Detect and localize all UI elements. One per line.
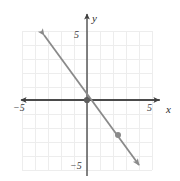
- point-origin: [84, 97, 90, 103]
- x-axis-tick-label-negative-5: −5: [13, 103, 25, 113]
- y-axis-name: y: [92, 13, 97, 24]
- point-on-line: [115, 132, 121, 138]
- x-axis-tick-label-5: 5: [147, 103, 152, 113]
- graph-figure: 5 −5 5 −5 y x: [0, 0, 180, 181]
- y-axis-tick-label-5: 5: [74, 30, 79, 40]
- coordinate-plane-svg: [0, 0, 180, 181]
- y-axis-tick-label-negative-5: −5: [70, 161, 82, 171]
- x-axis-name: x: [166, 104, 171, 115]
